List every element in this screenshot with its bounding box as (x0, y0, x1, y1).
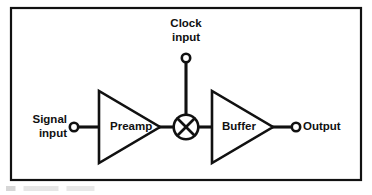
signal-input-label-line2: input (22, 127, 67, 141)
mixer-symbol (174, 115, 199, 140)
signal-input-label-line1: Signal (22, 113, 67, 127)
signal-input-label: Signal input (22, 113, 67, 140)
clock-input-label-line2: input (158, 31, 214, 45)
clock-input-label: Clock input (158, 17, 214, 44)
output-label-line1: Output (303, 120, 341, 134)
clock-input-terminal (182, 54, 190, 62)
buffer-block-label: Buffer (222, 120, 256, 132)
preamp-block-label: Preamp (110, 120, 152, 132)
signal-input-terminal (70, 123, 78, 131)
output-label: Output (303, 120, 341, 134)
output-terminal (292, 123, 300, 131)
clock-input-label-line1: Clock (158, 17, 214, 31)
block-diagram-figure: Signal input Clock input Output Preamp B… (0, 0, 372, 195)
cropped-caption-artifact (6, 186, 110, 191)
